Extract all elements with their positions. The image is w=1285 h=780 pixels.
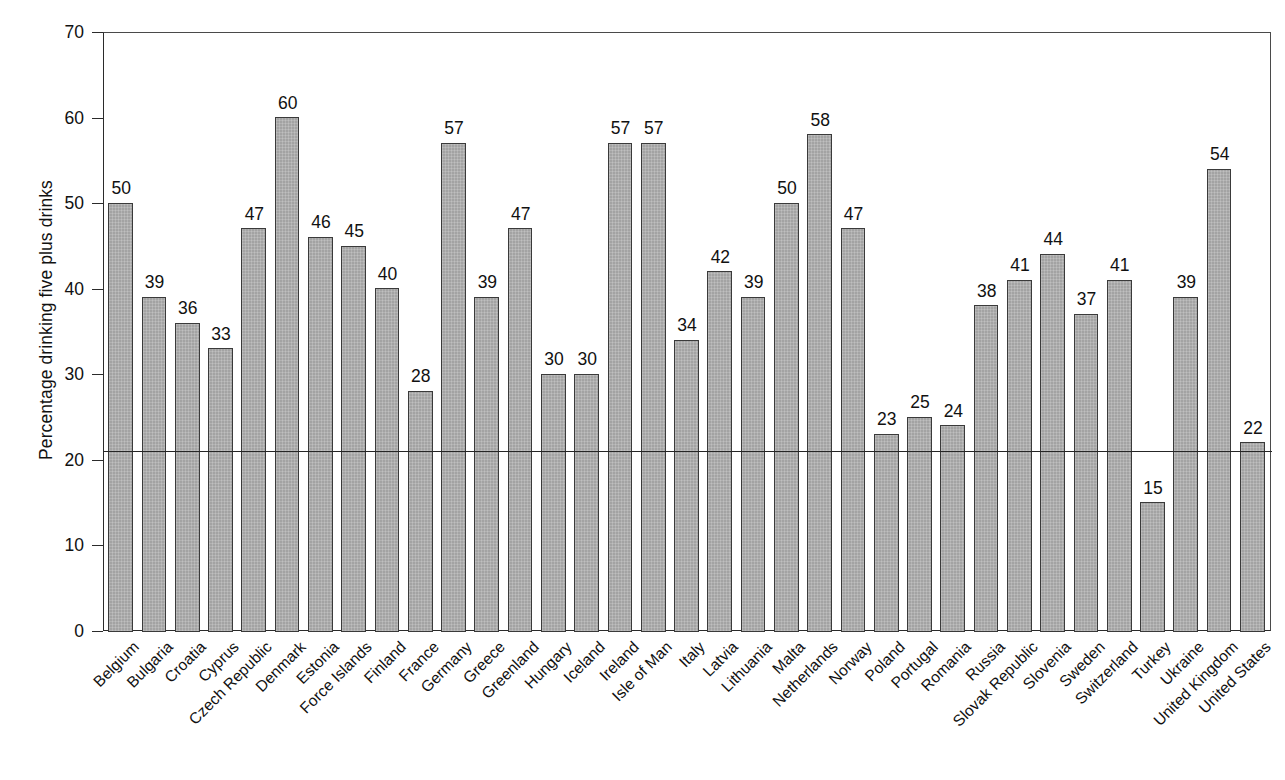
bar-value-label: 39 <box>729 272 779 293</box>
bar <box>142 297 167 632</box>
bar-value-label: 44 <box>1028 229 1078 250</box>
bar-value-label: 39 <box>462 272 512 293</box>
bar <box>275 117 300 632</box>
bar <box>1040 254 1065 632</box>
bar <box>208 348 233 632</box>
bar <box>974 305 999 632</box>
bar <box>907 417 932 632</box>
y-tick-mark <box>92 545 103 546</box>
bar <box>1240 442 1265 632</box>
y-tick-label: 50 <box>14 193 84 214</box>
y-tick-label: 20 <box>14 449 84 470</box>
bar-chart: Percentage drinking five plus drinks 010… <box>0 0 1285 780</box>
reference-line <box>103 451 1272 452</box>
bar-value-label: 36 <box>163 298 213 319</box>
bar <box>674 340 699 632</box>
bar-value-label: 34 <box>662 315 712 336</box>
bar <box>641 143 666 632</box>
bar <box>341 246 366 632</box>
bar <box>375 288 400 632</box>
bar <box>741 297 766 632</box>
y-tick-label: 0 <box>14 621 84 642</box>
bar <box>841 228 866 632</box>
bar <box>308 237 333 632</box>
bar <box>175 323 200 632</box>
y-tick-mark <box>92 289 103 290</box>
bar <box>1207 169 1232 632</box>
bar <box>1173 297 1198 632</box>
y-tick-label: 70 <box>14 22 84 43</box>
bar-value-label: 39 <box>1161 272 1211 293</box>
bar-value-label: 41 <box>1095 255 1145 276</box>
bar <box>774 203 799 632</box>
bar-value-label: 57 <box>629 118 679 139</box>
y-tick-mark <box>92 32 103 33</box>
bar <box>874 434 899 632</box>
bar <box>1074 314 1099 632</box>
bar-value-label: 58 <box>795 110 845 131</box>
y-tick-label: 60 <box>14 107 84 128</box>
bar-value-label: 54 <box>1195 144 1245 165</box>
bar-value-label: 30 <box>562 349 612 370</box>
bar-value-label: 40 <box>363 264 413 285</box>
bar <box>408 391 433 632</box>
y-tick-mark <box>92 374 103 375</box>
bar-value-label: 47 <box>829 204 879 225</box>
bar-value-label: 22 <box>1228 418 1278 439</box>
bar-value-label: 42 <box>695 247 745 268</box>
bar <box>574 374 599 632</box>
y-tick-mark <box>92 631 103 632</box>
y-tick-label: 10 <box>14 535 84 556</box>
bar-value-label: 50 <box>762 178 812 199</box>
bar-value-label: 28 <box>396 366 446 387</box>
bar-value-label: 60 <box>263 93 313 114</box>
bar-value-label: 57 <box>429 118 479 139</box>
y-tick-mark <box>92 203 103 204</box>
y-tick-mark <box>92 118 103 119</box>
bar <box>1007 280 1032 632</box>
bar-value-label: 38 <box>962 281 1012 302</box>
y-tick-mark <box>92 460 103 461</box>
bar <box>608 143 633 632</box>
y-tick-label: 40 <box>14 278 84 299</box>
bar-value-label: 39 <box>130 272 180 293</box>
bar <box>1107 280 1132 632</box>
bar-value-label: 47 <box>496 204 546 225</box>
bar-value-label: 47 <box>229 204 279 225</box>
bar <box>541 374 566 632</box>
bar <box>241 228 266 632</box>
bar-value-label: 33 <box>196 324 246 345</box>
bar <box>474 297 499 632</box>
caption-sliver <box>150 770 850 780</box>
bar <box>1140 502 1165 632</box>
bar-value-label: 50 <box>96 178 146 199</box>
y-tick-label: 30 <box>14 364 84 385</box>
bar <box>108 203 133 632</box>
bar <box>441 143 466 632</box>
bar-value-label: 41 <box>995 255 1045 276</box>
bar-value-label: 15 <box>1128 478 1178 499</box>
bar <box>940 425 965 632</box>
bar-value-label: 24 <box>928 401 978 422</box>
bar-value-label: 45 <box>329 221 379 242</box>
bar-value-label: 37 <box>1062 289 1112 310</box>
